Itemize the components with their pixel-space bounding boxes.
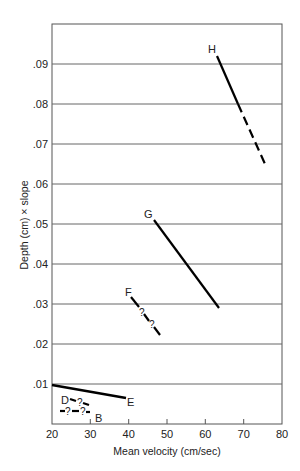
series-b: ? ? B [60, 406, 102, 424]
svg-text:.07: .07 [33, 138, 48, 150]
svg-text:20: 20 [46, 428, 58, 440]
uncertain-mark: ? [80, 406, 86, 417]
y-tick-labels: .09 .08 .07 .06 .05 .04 .03 .02 .01 [33, 58, 48, 390]
label-b: B [95, 412, 102, 424]
svg-text:.08: .08 [33, 98, 48, 110]
uncertain-mark: ? [65, 406, 71, 417]
svg-text:.05: .05 [33, 218, 48, 230]
svg-text:.02: .02 [33, 338, 48, 350]
svg-text:30: 30 [84, 428, 96, 440]
svg-text:.06: .06 [33, 178, 48, 190]
label-f: F [125, 286, 132, 298]
label-h: H [208, 43, 216, 55]
x-axis-label: Mean velocity (cm/sec) [113, 445, 220, 457]
uncertain-mark: ? [149, 319, 155, 330]
svg-text:.09: .09 [33, 58, 48, 70]
svg-text:40: 40 [123, 428, 135, 440]
svg-text:.01: .01 [33, 378, 48, 390]
svg-text:.04: .04 [33, 258, 48, 270]
y-axis-label: Depth (cm) × slope [18, 180, 30, 269]
label-e: E [127, 396, 134, 408]
svg-text:.03: .03 [33, 298, 48, 310]
svg-text:60: 60 [199, 428, 211, 440]
svg-text:50: 50 [161, 428, 173, 440]
gridlines [52, 64, 282, 384]
series-g: G [144, 208, 219, 308]
series-f: F ? ? [125, 286, 160, 335]
x-tick-labels: 20 30 40 50 60 70 80 [46, 428, 288, 440]
svg-text:80: 80 [276, 428, 288, 440]
svg-text:70: 70 [238, 428, 250, 440]
chart: .09 .08 .07 .06 .05 .04 .03 .02 .01 20 3… [0, 0, 300, 471]
uncertain-mark: ? [139, 307, 145, 318]
label-d: D [61, 394, 69, 406]
label-g: G [144, 208, 153, 220]
x-ticks [90, 419, 243, 424]
